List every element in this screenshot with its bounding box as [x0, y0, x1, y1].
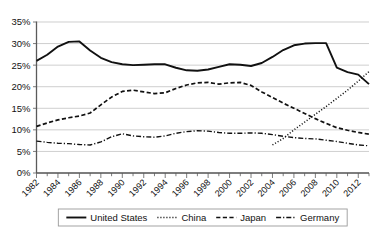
- y-tick-label: 25%: [11, 60, 31, 71]
- gridlines: [37, 22, 370, 173]
- y-tick-label: 30%: [11, 38, 31, 49]
- x-tick-label: 1986: [63, 177, 84, 198]
- y-tick-label: 20%: [11, 81, 31, 92]
- legend-label-united-states: United States: [90, 212, 147, 223]
- x-axis-ticks: [37, 173, 370, 178]
- y-tick-label: 15%: [11, 103, 31, 114]
- line-chart: 0%5%10%15%20%25%30%35% 19821984198619881…: [0, 0, 382, 240]
- y-tick-label: 5%: [17, 146, 31, 157]
- x-tick-label: 1984: [41, 177, 62, 198]
- chart-legend: United StatesChinaJapanGermany: [58, 209, 347, 226]
- x-tick-label: 1982: [20, 177, 41, 198]
- series-line-united-states: [37, 41, 370, 84]
- legend-label-china: China: [181, 212, 207, 223]
- x-tick-label: 1996: [170, 177, 191, 198]
- x-tick-label: 2000: [213, 177, 234, 198]
- x-tick-label: 1994: [148, 177, 169, 198]
- x-axis-labels: 1982198419861988199019921994199619982000…: [20, 177, 363, 198]
- x-tick-label: 1998: [191, 177, 212, 198]
- y-tick-label: 0%: [17, 167, 31, 178]
- x-tick-label: 2008: [299, 177, 320, 198]
- x-tick-label: 2012: [341, 177, 362, 198]
- x-tick-label: 2002: [234, 177, 255, 198]
- x-tick-label: 2004: [256, 177, 277, 198]
- x-tick-label: 1988: [84, 177, 105, 198]
- chart-canvas: 0%5%10%15%20%25%30%35% 19821984198619881…: [0, 0, 382, 240]
- x-tick-label: 2010: [320, 177, 341, 198]
- x-tick-label: 1990: [105, 177, 126, 198]
- legend-label-japan: Japan: [240, 212, 266, 223]
- y-tick-label: 35%: [11, 16, 31, 27]
- legend-label-germany: Germany: [300, 212, 339, 223]
- series-line-germany: [37, 131, 370, 146]
- y-tick-label: 10%: [11, 124, 31, 135]
- y-axis-labels: 0%5%10%15%20%25%30%35%: [11, 16, 36, 178]
- x-tick-label: 2006: [277, 177, 298, 198]
- x-tick-label: 1992: [127, 177, 148, 198]
